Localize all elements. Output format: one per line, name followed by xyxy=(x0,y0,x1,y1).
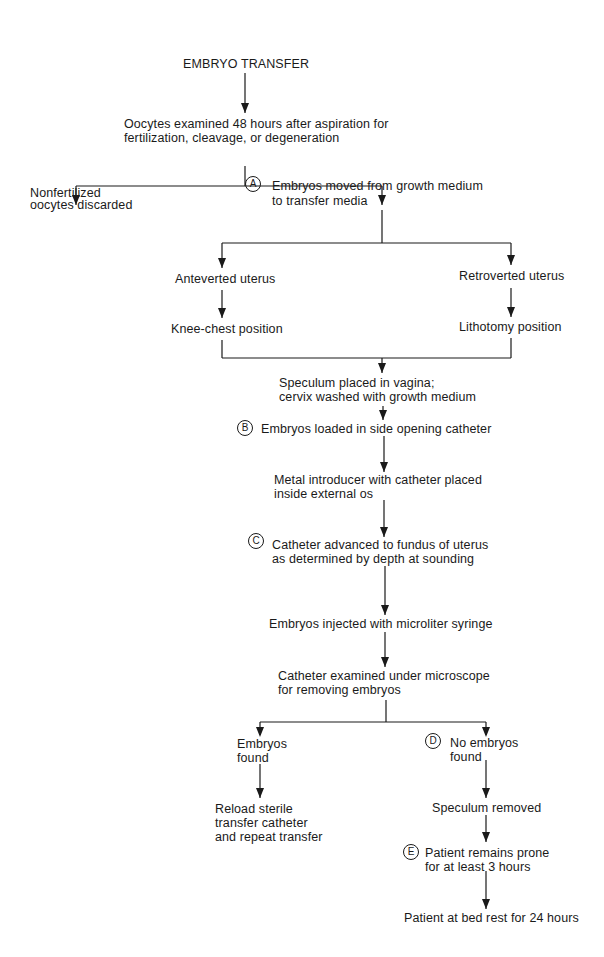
node-prone-line2: for at least 3 hours xyxy=(425,860,531,875)
node-introducer-line2: inside external os xyxy=(274,487,373,502)
node-speculum-line1: Speculum placed in vagina; xyxy=(279,376,434,391)
node-prone-line1: Patient remains prone xyxy=(425,846,549,861)
node-reload-line1: Reload sterile xyxy=(215,802,293,817)
node-retroverted: Retroverted uterus xyxy=(459,269,564,284)
node-reload-line2: transfer catheter xyxy=(215,816,308,831)
node-examine-line1: Oocytes examined 48 hours after aspirati… xyxy=(124,117,388,132)
node-reload-line3: and repeat transfer xyxy=(215,830,323,845)
node-discard-line2: oocytes discarded xyxy=(30,198,132,213)
node-introducer-line1: Metal introducer with catheter placed xyxy=(274,473,482,488)
node-anteverted: Anteverted uterus xyxy=(175,272,275,287)
node-speculum-removed: Speculum removed xyxy=(432,801,541,816)
step-badge-c: C xyxy=(248,533,264,549)
flowchart-title: EMBRYO TRANSFER xyxy=(183,57,309,72)
node-inject: Embryos injected with microliter syringe xyxy=(269,617,493,632)
node-speculum-line2: cervix washed with growth medium xyxy=(279,390,476,405)
node-found-line2: found xyxy=(237,751,269,766)
step-badge-d: D xyxy=(425,733,441,749)
step-badge-b: B xyxy=(237,420,253,436)
node-advance-line1: Catheter advanced to fundus of uterus xyxy=(272,538,488,553)
node-load: Embryos loaded in side opening catheter xyxy=(261,422,491,437)
node-check-line1: Catheter examined under microscope xyxy=(278,669,490,684)
node-examine-line2: fertilization, cleavage, or degeneration xyxy=(124,131,339,146)
step-badge-a: A xyxy=(245,176,261,192)
node-move-line2: to transfer media xyxy=(272,194,368,209)
node-knee-chest: Knee-chest position xyxy=(171,322,283,337)
step-badge-e: E xyxy=(403,844,419,860)
node-advance-line2: as determined by depth at sounding xyxy=(272,552,474,567)
node-notfound-line1: No embryos xyxy=(450,736,518,751)
node-move-line1: Embryos moved from growth medium xyxy=(272,179,483,194)
node-notfound-line2: found xyxy=(450,750,482,765)
node-found-line1: Embryos xyxy=(237,737,287,752)
node-lithotomy: Lithotomy position xyxy=(459,320,562,335)
node-check-line2: for removing embryos xyxy=(278,683,401,698)
node-bedrest: Patient at bed rest for 24 hours xyxy=(404,911,579,926)
